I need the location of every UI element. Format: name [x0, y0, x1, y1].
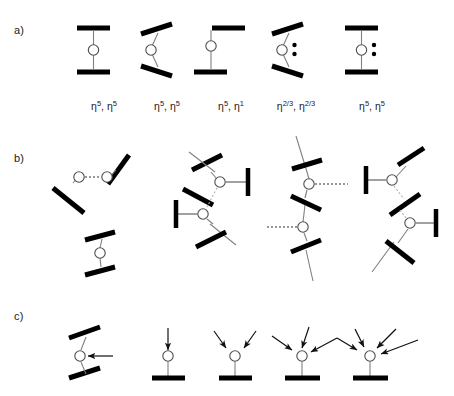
structure-bent-sandwich — [141, 24, 172, 76]
eta-label-bent-sandwich: η5, η5 — [154, 100, 180, 112]
eta-text-2: η5, η5 — [154, 100, 180, 112]
structure-bent-sandwich-one-donor — [69, 327, 113, 378]
eta-text-5: η5, η5 — [359, 100, 385, 112]
row-label-b: b) — [14, 152, 24, 164]
structure-half-sandwich-three-donors — [272, 327, 337, 378]
eta-label-parallel-sandwich-lone-pair: η5, η5 — [359, 100, 385, 112]
structure-zigzag-chain-terminal-bars — [176, 152, 248, 247]
structure-slipped-sandwich — [194, 28, 245, 72]
lone-pair-dots-a4 — [292, 43, 296, 56]
eta-text-1: η5, η5 — [91, 100, 117, 112]
structure-parallel-sandwich — [77, 28, 110, 72]
structures-drawing — [0, 0, 454, 396]
structure-dimer-with-separate-sandwich — [53, 155, 129, 275]
structure-vertical-polymer-chain — [266, 136, 348, 281]
row-c-structures — [69, 327, 418, 378]
row-a-structures — [77, 24, 378, 76]
row-label-a: a) — [14, 24, 24, 36]
lone-pair-dots-a5 — [372, 43, 376, 56]
structure-bent-sandwich-lone-pair — [272, 24, 303, 76]
row-b-structures — [53, 136, 436, 281]
structure-half-sandwich-one-donor — [152, 328, 185, 378]
structure-parallel-sandwich-lone-pair — [345, 28, 378, 72]
structure-half-sandwich-two-donors — [214, 331, 256, 378]
eta-label-slipped-sandwich: η5, η1 — [218, 100, 244, 112]
eta-text-4: η2/3, η2/3 — [277, 100, 315, 112]
structure-zigzag-chain-right-terminal-bars — [366, 148, 436, 272]
eta-label-bent-sandwich-lone-pair: η2/3, η2/3 — [277, 100, 315, 112]
figure-canvas: a) b) c) — [0, 0, 454, 396]
eta-text-3: η5, η1 — [218, 100, 244, 112]
eta-label-parallel-sandwich: η5, η5 — [91, 100, 117, 112]
row-label-c: c) — [14, 310, 24, 322]
structure-half-sandwich-four-donors — [337, 329, 418, 378]
